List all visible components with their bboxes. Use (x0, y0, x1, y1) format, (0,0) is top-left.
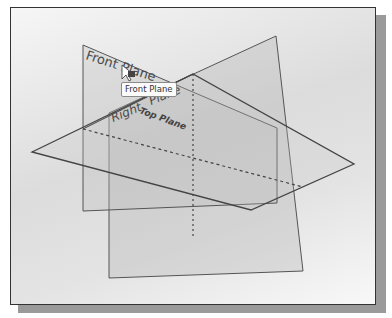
planes-scene: Front Plane Right Plane Top Plane (11, 8, 376, 305)
plane-tooltip: Front Plane (121, 82, 177, 97)
graphics-viewport[interactable]: Front Plane Right Plane Top Plane Front … (10, 7, 376, 305)
